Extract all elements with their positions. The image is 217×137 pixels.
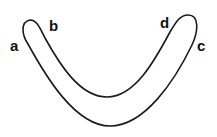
label-b: b <box>49 18 58 33</box>
boomerang-shape <box>0 0 217 137</box>
label-a: a <box>10 38 18 53</box>
label-d: d <box>160 15 169 30</box>
label-c: c <box>197 38 205 53</box>
